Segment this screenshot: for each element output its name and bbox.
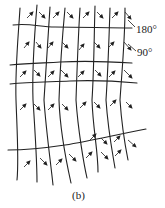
- angle-label-90: 90°: [137, 46, 152, 58]
- arrows-row-6: [24, 150, 121, 167]
- vertical-grid-lines: [16, 5, 128, 185]
- label-pointers: [128, 20, 136, 51]
- arrows-row-3: [20, 70, 132, 78]
- figure-caption: (b): [72, 189, 85, 201]
- angle-label-180: 180°: [136, 23, 157, 35]
